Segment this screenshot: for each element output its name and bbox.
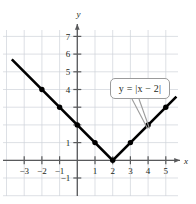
leader-line-1 bbox=[132, 99, 148, 129]
coordinate-plane: −3−2−112345−114567 x y bbox=[0, 0, 196, 204]
data-point bbox=[110, 158, 115, 163]
x-tick-label: 3 bbox=[128, 166, 133, 176]
x-axis-label: x bbox=[183, 156, 188, 166]
x-tick-label: 1 bbox=[93, 166, 98, 176]
y-tick-label: 7 bbox=[66, 32, 71, 42]
x-tick-label: 2 bbox=[110, 166, 115, 176]
data-point bbox=[128, 140, 133, 145]
axes bbox=[3, 24, 180, 196]
y-tick-label: 4 bbox=[66, 85, 71, 95]
data-point bbox=[92, 140, 97, 145]
data-point bbox=[75, 122, 80, 127]
x-tick-label: −2 bbox=[37, 166, 47, 176]
figure-container: −3−2−112345−114567 x y y = |x − 2| bbox=[0, 0, 196, 204]
grid-lines bbox=[3, 30, 178, 196]
function-curve-abs bbox=[12, 59, 177, 160]
x-tick-label: 4 bbox=[146, 166, 151, 176]
equation-callout-text: y = |x − 2| bbox=[119, 83, 161, 94]
y-axis-arrowhead bbox=[75, 24, 80, 30]
x-tick-label: −3 bbox=[19, 166, 29, 176]
data-point bbox=[57, 105, 62, 110]
y-tick-label: 5 bbox=[66, 67, 71, 77]
y-tick-label: 1 bbox=[66, 138, 71, 148]
equation-callout-box: y = |x − 2| bbox=[110, 78, 170, 99]
y-axis-label: y bbox=[76, 9, 81, 19]
x-axis-arrowhead bbox=[174, 158, 180, 163]
y-tick-label: 6 bbox=[66, 49, 71, 59]
data-point bbox=[163, 105, 168, 110]
data-point bbox=[39, 87, 44, 92]
y-tick-label: −1 bbox=[61, 173, 71, 183]
x-tick-label: 5 bbox=[164, 166, 169, 176]
